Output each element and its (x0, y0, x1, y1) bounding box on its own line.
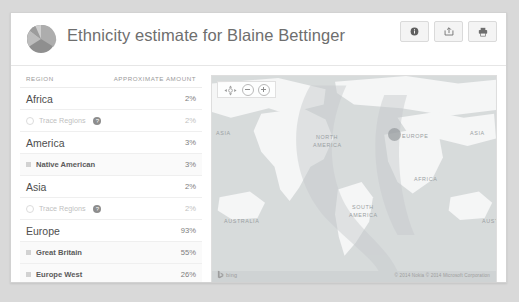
swatch-square-icon (26, 272, 31, 277)
swatch-square-icon (26, 162, 31, 167)
region-amount: 2% (185, 116, 196, 125)
table-row[interactable]: America3% (20, 132, 202, 154)
map-copyright: © 2014 Nokia © 2014 Microsoft Corporatio… (395, 273, 490, 278)
ethnicity-estimate-card: Ethnicity estimate for Blaine Bettinger (10, 12, 507, 283)
table-row[interactable]: Africa2% (20, 88, 202, 110)
region-amount: 3% (185, 138, 196, 147)
region-label: Great Britain (36, 248, 82, 257)
compass-pan-icon[interactable] (223, 83, 238, 96)
bing-mark-icon (217, 270, 224, 279)
region-table: REGION APPROXIMATE AMOUNT Africa2%Trace … (20, 75, 202, 282)
map-navigation-controls[interactable] (217, 81, 276, 98)
region-amount: 55% (181, 248, 196, 257)
table-rows: Africa2%Trace Regions?2%America3%Native … (20, 88, 202, 283)
table-row[interactable]: Great Britain55% (20, 242, 202, 264)
header-button-group (400, 21, 497, 42)
table-row[interactable]: Asia2% (20, 176, 202, 198)
info-circle-icon (410, 27, 419, 36)
card-header: Ethnicity estimate for Blaine Bettinger (11, 13, 506, 66)
column-header-amount: APPROXIMATE AMOUNT (114, 75, 196, 82)
region-label: Europe (26, 225, 60, 237)
table-column-headers: REGION APPROXIMATE AMOUNT (20, 75, 202, 88)
map-zoom-in-button[interactable] (258, 84, 270, 96)
printer-icon (478, 27, 488, 37)
page-title: Ethnicity estimate for Blaine Bettinger (67, 26, 345, 45)
share-export-icon (444, 27, 454, 36)
region-label: Africa (26, 93, 53, 105)
row-label-group: Native American (26, 160, 95, 169)
table-row[interactable]: Europe93% (20, 220, 202, 242)
table-row[interactable]: Trace Regions?2% (20, 110, 202, 132)
region-label: Europe West (36, 270, 82, 279)
row-label-group: Europe West (26, 270, 82, 279)
table-row[interactable]: Native American3% (20, 154, 202, 176)
region-amount: 2% (185, 182, 196, 191)
row-label-group: Trace Regions? (26, 116, 101, 125)
region-amount: 26% (181, 270, 196, 279)
swatch-circle-icon (26, 117, 34, 125)
row-label-group: Europe (26, 225, 60, 237)
region-amount: 93% (181, 226, 196, 235)
row-label-group: Africa (26, 93, 53, 105)
column-header-region: REGION (26, 75, 54, 82)
map-zoom-out-button[interactable] (242, 84, 254, 96)
table-row[interactable]: Europe West26% (20, 264, 202, 283)
screen: Ethnicity estimate for Blaine Bettinger (0, 0, 519, 302)
bing-logo[interactable]: bing (217, 270, 237, 279)
card-body: REGION APPROXIMATE AMOUNT Africa2%Trace … (11, 66, 506, 282)
row-label-group: Asia (26, 181, 46, 193)
region-label: Asia (26, 181, 46, 193)
print-button[interactable] (468, 21, 497, 42)
region-amount: 3% (185, 160, 196, 169)
swatch-square-icon (26, 250, 31, 255)
region-label: Trace Regions (39, 204, 85, 213)
europe-highlight-marker (388, 128, 401, 141)
region-amount: 2% (185, 94, 196, 103)
share-button[interactable] (434, 21, 463, 42)
world-map[interactable]: ASIANORTHAMERICAEUROPEASIAAFRICASOUTHAME… (211, 75, 497, 283)
info-button[interactable] (400, 21, 429, 42)
region-amount: 2% (185, 204, 196, 213)
row-label-group: Great Britain (26, 248, 82, 257)
table-row[interactable]: Trace Regions?2% (20, 198, 202, 220)
swatch-circle-icon (26, 205, 34, 213)
region-label: Native American (36, 160, 95, 169)
help-icon[interactable]: ? (93, 117, 101, 125)
pie-chart-icon (23, 21, 59, 57)
bing-logo-text: bing (226, 272, 237, 278)
row-label-group: Trace Regions? (26, 204, 101, 213)
help-icon[interactable]: ? (93, 205, 101, 213)
region-label: Trace Regions (39, 116, 85, 125)
row-label-group: America (26, 137, 65, 149)
region-label: America (26, 137, 65, 149)
map-canvas (212, 76, 496, 271)
